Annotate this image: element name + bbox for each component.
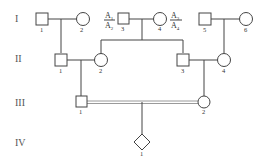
genotype-I4: A3 A4 <box>170 11 182 31</box>
individual-II2-female-circle[interactable] <box>95 54 108 67</box>
svg-text:A1: A1 <box>105 11 114 21</box>
individual-III1-male-square[interactable] <box>76 96 87 107</box>
individual-I5-male-square[interactable] <box>199 13 211 25</box>
individual-II1-male-square[interactable] <box>55 54 67 66</box>
individual-II3-number: 3 <box>181 67 184 74</box>
generation-label-II: II <box>15 53 22 64</box>
individual-II3-male-square[interactable] <box>177 54 189 66</box>
individual-II4-female-circle[interactable] <box>218 54 231 67</box>
individual-II2-number: 2 <box>99 67 102 74</box>
generation-label-I: I <box>15 13 18 24</box>
individual-I4-number: 4 <box>158 25 162 32</box>
generation-label-III: III <box>15 97 25 108</box>
individual-I2-number: 2 <box>80 26 83 33</box>
svg-text:A4: A4 <box>171 21 180 31</box>
individual-II1-number: 1 <box>59 67 62 74</box>
individual-IV1-number: 1 <box>140 150 143 157</box>
individual-I1-number: 1 <box>40 26 43 33</box>
individual-III2-number: 2 <box>202 108 205 115</box>
individual-I6-female-circle[interactable] <box>240 13 253 26</box>
individual-I5-number: 5 <box>203 26 206 33</box>
individual-I2-female-circle[interactable] <box>77 13 90 26</box>
individual-III1-number: 1 <box>79 108 82 115</box>
individual-II4-number: 4 <box>222 67 226 74</box>
individual-I3-male-square[interactable] <box>118 13 129 24</box>
svg-text:A2: A2 <box>105 21 114 31</box>
individual-I1-male-square[interactable] <box>36 13 48 25</box>
individual-IV1-unknown-sex-diamond[interactable] <box>134 134 150 150</box>
individual-I6-number: 6 <box>244 26 248 33</box>
individual-I4-female-circle[interactable] <box>154 13 167 26</box>
svg-text:A3: A3 <box>171 11 180 21</box>
individual-I3-number: 3 <box>121 25 124 32</box>
genotype-I3: A1 A2 <box>104 11 115 31</box>
individual-III2-female-circle[interactable] <box>198 96 210 108</box>
pedigree-diagram: I II III IV 1 2 A1 A2 3 4 A3 A4 5 6 1 2 … <box>0 0 265 160</box>
generation-label-IV: IV <box>15 137 26 148</box>
